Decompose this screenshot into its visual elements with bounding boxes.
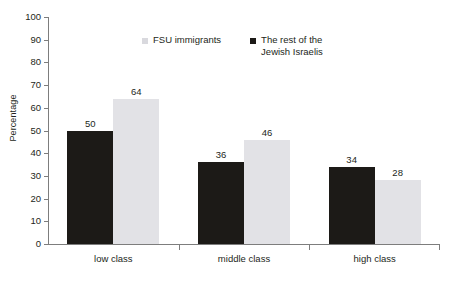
x-axis-category-label: low class xyxy=(94,253,133,264)
bar xyxy=(198,162,244,244)
x-axis-category-label: middle class xyxy=(218,253,270,264)
bar-value-label: 64 xyxy=(131,86,142,97)
bar-value-label: 50 xyxy=(85,118,96,129)
bar xyxy=(329,167,375,244)
y-axis-tick-label: 50 xyxy=(11,126,41,136)
bar-value-label: 28 xyxy=(392,167,403,178)
bar xyxy=(67,131,113,245)
y-axis-tick-label: 10 xyxy=(11,216,41,226)
y-axis-tick-label: 70 xyxy=(11,80,41,90)
bar xyxy=(244,140,290,244)
x-axis-end-tick xyxy=(439,245,440,250)
y-axis-tick-label: 60 xyxy=(11,103,41,113)
x-axis-category-label: high class xyxy=(354,253,396,264)
y-axis-tick-label: 80 xyxy=(11,57,41,67)
y-axis-tick-label: 90 xyxy=(11,35,41,45)
y-axis-tick-label: 30 xyxy=(11,171,41,181)
x-axis-tick-mark xyxy=(179,245,180,250)
y-axis-tick-label: 0 xyxy=(11,239,41,249)
x-axis-line xyxy=(48,244,440,245)
bar-value-label: 46 xyxy=(262,127,273,138)
y-axis-tick-labels: 1009080706050403020100 xyxy=(11,0,41,281)
bar-value-label: 36 xyxy=(216,149,227,160)
bar-chart: Percentage 1009080706050403020100 FSU im… xyxy=(0,0,456,281)
y-axis-tick-label: 20 xyxy=(11,194,41,204)
bar-value-label: 34 xyxy=(346,154,357,165)
y-axis-tick-label: 100 xyxy=(11,12,41,22)
y-axis-tick-label: 40 xyxy=(11,148,41,158)
x-axis-tick-mark xyxy=(309,245,310,250)
plot-area: 506436463428 xyxy=(48,17,440,244)
bar xyxy=(375,180,421,244)
bar xyxy=(113,99,159,244)
